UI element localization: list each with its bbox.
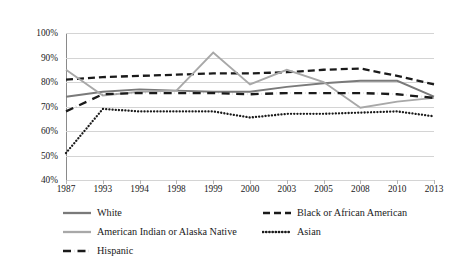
x-tick-label: 2000 [241,184,260,194]
legend-item-label: Hispanic [97,245,133,256]
legend-item[interactable]: White [62,207,262,219]
legend-item-label: Black or African American [297,207,407,218]
y-tick-label: 90% [0,53,58,63]
series-line [66,109,434,153]
x-tick-label: 2008 [351,184,370,194]
series-line [66,93,434,111]
chart-legend: WhiteBlack or African AmericanAmerican I… [62,203,442,260]
x-tick-label: 1998 [167,184,186,194]
series-line [66,69,434,85]
legend-item[interactable]: Black or African American [262,207,442,219]
legend-swatch [262,226,292,238]
x-tick-label: 2005 [314,184,333,194]
legend-item[interactable]: American Indian or Alaska Native [62,226,262,238]
legend-item-label: Asian [297,226,321,237]
x-tick-label: 1999 [204,184,223,194]
legend-item-label: American Indian or Alaska Native [97,226,237,237]
x-tick-label: 2010 [388,184,407,194]
plot-area [66,33,434,180]
x-tick-label: 1994 [130,184,149,194]
x-tick-label: 2013 [425,184,444,194]
y-tick-label: 80% [0,77,58,87]
legend-swatch [262,207,292,219]
legend-row: WhiteBlack or African American [62,203,442,222]
chart-figure: 100%90%80%70%60%50%40% 19871993199419981… [0,0,450,266]
legend-swatch [62,245,92,257]
legend-row: American Indian or Alaska NativeAsian [62,222,442,241]
x-tick-label: 1993 [94,184,113,194]
legend-item-label: White [97,207,122,218]
y-tick-label: 70% [0,102,58,112]
x-tick-label: 2003 [278,184,297,194]
y-tick-label: 100% [0,28,58,38]
series-lines [66,33,434,180]
y-tick-label: 40% [0,175,58,185]
x-tick-label: 1987 [57,184,76,194]
legend-row: Hispanic [62,241,442,260]
legend-item[interactable]: Hispanic [62,245,262,257]
y-tick-label: 50% [0,151,58,161]
y-tick-label: 60% [0,126,58,136]
legend-swatch [62,226,92,238]
legend-swatch [62,207,92,219]
legend-item[interactable]: Asian [262,226,442,238]
